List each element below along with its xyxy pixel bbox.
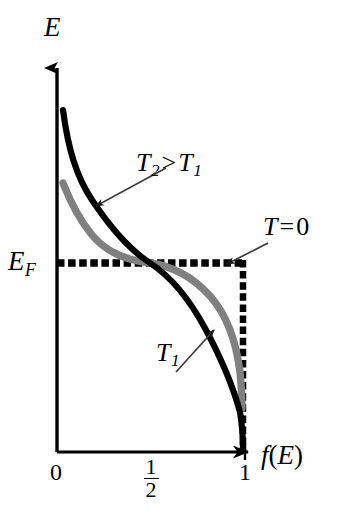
annotation-t1: T1: [156, 340, 180, 370]
annotation-t-equals-zero: T=0: [263, 214, 309, 240]
fraction-numerator: 1: [144, 456, 159, 479]
x-tick-label-zero: 0: [44, 460, 68, 484]
fraction-one-half: 12: [144, 456, 159, 502]
fermi-level-label: EF: [8, 248, 36, 280]
x-tick-label-one: 1: [233, 460, 257, 484]
leader-line-T0-annotation: [227, 243, 268, 264]
x-tick-label-half: 12: [136, 456, 166, 502]
annotation-t2-greater-t1: T2>T1: [136, 150, 202, 180]
fraction-denominator: 2: [144, 479, 159, 501]
y-axis-label: E: [44, 14, 61, 41]
curve-T1: [63, 183, 242, 408]
x-axis-label: f(E): [261, 442, 303, 469]
leader-line-T1-annotation: [176, 330, 214, 372]
fermi-dirac-figure: E f(E) EF T2>T1 T1 T=0 0 1 12: [0, 0, 348, 525]
